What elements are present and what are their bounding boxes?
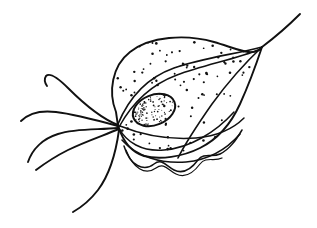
flagellar-base-kinetosome	[116, 124, 119, 127]
protozoan-diagram-svg: Flagellated protozoan cell line drawing …	[0, 0, 317, 228]
protozoan-figure: Flagellated protozoan cell line drawing …	[0, 0, 317, 228]
figure-background	[0, 0, 317, 228]
